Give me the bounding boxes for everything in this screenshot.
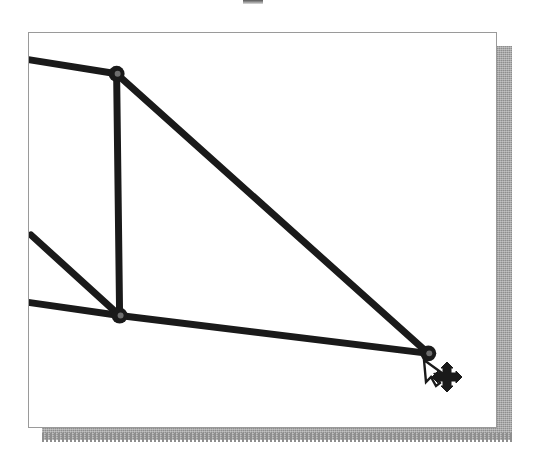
joint-top[interactable] — [109, 66, 125, 82]
joint-pin-hole — [118, 313, 124, 319]
member-B-to-C[interactable] — [120, 316, 429, 354]
cropped-text-mark — [243, 0, 263, 4]
canvas-drop-shadow-fringe — [42, 433, 512, 442]
member-A-to-B[interactable] — [117, 74, 120, 316]
member-topleft-to-A[interactable] — [30, 60, 117, 74]
drawing-canvas[interactable] — [28, 32, 497, 428]
joint-middle[interactable] — [112, 308, 128, 324]
joint-pin-hole — [426, 350, 432, 356]
truss-diagram[interactable] — [29, 33, 496, 427]
members-group — [30, 60, 428, 354]
member-A-to-C[interactable] — [117, 74, 429, 354]
joint-right[interactable] — [420, 345, 436, 361]
figure-scene — [0, 0, 538, 462]
joint-pin-hole — [115, 71, 121, 77]
